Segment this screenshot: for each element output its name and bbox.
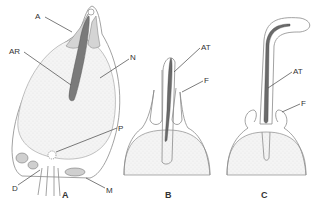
panel-b: AT F B (124, 43, 211, 200)
panel-a: A AR N P D M A (9, 6, 136, 200)
label-mitochondrion: M (106, 186, 113, 195)
label-acrosomal-tubule: AT (201, 43, 211, 52)
label-fold: F (204, 76, 209, 85)
mitochondrion (28, 161, 38, 169)
proximal-centriole (48, 151, 56, 159)
flagellum-base (38, 166, 60, 196)
fold-right (276, 110, 287, 128)
fold-left (245, 110, 256, 128)
label-acrosomal-tubule: AT (293, 67, 303, 76)
label-nucleus: N (130, 53, 136, 62)
label-distal: D (12, 184, 18, 193)
label-axial-rod: AR (9, 47, 20, 56)
panel-label-a: A (62, 190, 69, 200)
acrosome (88, 16, 100, 48)
panel-c: AT F C (227, 18, 310, 200)
mitochondrion (16, 153, 28, 163)
fold-left (150, 70, 162, 125)
label-fold: F (301, 99, 306, 108)
mitochondrion (65, 168, 85, 176)
acrosomal-vesicle (88, 9, 94, 15)
nucleus (227, 132, 306, 175)
label-acrosome: A (35, 12, 41, 21)
sperm-acrosome-diagram: A AR N P D M A AT F B (0, 0, 319, 206)
panel-label-c: C (261, 190, 268, 200)
panel-label-b: B (165, 190, 172, 200)
acrosomal-tubule (165, 58, 172, 142)
label-centriole: P (118, 124, 123, 133)
nucleus (18, 38, 116, 159)
